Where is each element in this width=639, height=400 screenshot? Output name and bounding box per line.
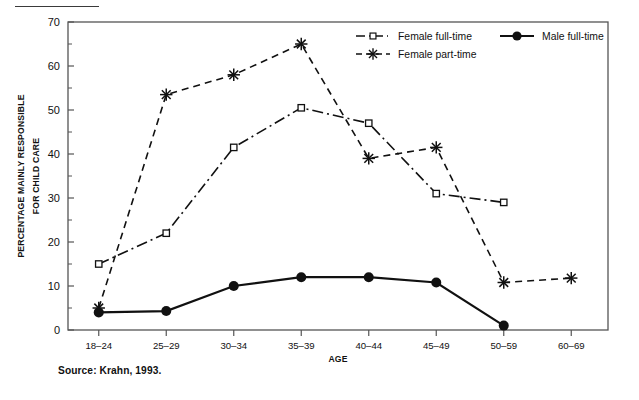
data-point-marker [367, 48, 378, 59]
y-axis-title-line1: PERCENTAGE MAINLY RESPONSIBLE [16, 94, 26, 257]
data-point-marker [160, 88, 172, 100]
x-axis-title: AGE [328, 354, 347, 364]
data-point-marker [499, 321, 509, 331]
x-tick-label: 60–69 [558, 340, 585, 351]
series-2 [93, 38, 578, 314]
data-point-marker [231, 144, 237, 150]
data-point-marker [228, 69, 240, 81]
data-point-marker [94, 307, 104, 317]
legend-item-1[interactable]: Female full-time [356, 31, 472, 42]
x-tick-label: 45–49 [423, 340, 450, 351]
data-point-marker [498, 276, 510, 288]
data-point-marker [433, 190, 439, 196]
data-point-marker [366, 120, 372, 126]
y-tick-label: 60 [48, 60, 60, 72]
data-point-marker [501, 199, 507, 205]
x-axis-tick-labels: 18–2425–2930–3435–3940–4445–4950–5960–69 [85, 340, 584, 351]
data-point-marker [370, 33, 376, 39]
data-point-marker [229, 281, 239, 291]
legend-label: Female part-time [398, 49, 477, 60]
data-point-marker [430, 141, 442, 153]
data-point-marker [295, 38, 307, 50]
legend-label: Male full-time [542, 31, 604, 42]
series-1 [96, 105, 507, 268]
data-point-marker [161, 306, 171, 316]
plot-frame [68, 22, 608, 330]
y-axis-tick-labels: 010203040506070 [48, 16, 60, 336]
x-axis-ticks [99, 330, 572, 336]
data-point-marker [296, 272, 306, 282]
data-point-marker [163, 230, 169, 236]
legend-box [348, 18, 608, 66]
series-line [99, 108, 504, 264]
legend-item-2[interactable]: Female part-time [356, 48, 477, 60]
data-point-marker [512, 31, 521, 40]
source-note: Source: Krahn, 1993. [58, 365, 161, 376]
x-tick-label: 18–24 [85, 340, 112, 351]
data-point-marker [565, 272, 577, 284]
figure-container: 010203040506070 18–2425–2930–3435–3940–4… [0, 0, 639, 400]
y-tick-label: 0 [54, 324, 60, 336]
y-tick-label: 10 [48, 280, 60, 292]
y-tick-label: 30 [48, 192, 60, 204]
x-tick-label: 35–39 [288, 340, 315, 351]
data-point-marker [298, 105, 304, 111]
series-3 [94, 272, 509, 330]
x-tick-label: 50–59 [490, 340, 517, 351]
legend-entries: Female full-timeFemale part-timeMale ful… [356, 31, 604, 60]
x-tick-label: 30–34 [220, 340, 247, 351]
chart-svg: 010203040506070 18–2425–2930–3435–3940–4… [0, 0, 639, 400]
legend-label: Female full-time [398, 31, 472, 42]
legend-item-3[interactable]: Male full-time [500, 31, 604, 42]
series-line [99, 277, 504, 325]
chart-legend: Female full-timeFemale part-timeMale ful… [348, 18, 608, 66]
y-axis-ticks [68, 22, 74, 330]
x-tick-label: 25–29 [153, 340, 180, 351]
data-point-marker [363, 152, 375, 164]
x-tick-label: 40–44 [355, 340, 382, 351]
data-point-marker [364, 272, 374, 282]
y-tick-label: 20 [48, 236, 60, 248]
data-series-layer [93, 38, 578, 331]
data-point-marker [96, 261, 102, 267]
y-tick-label: 50 [48, 104, 60, 116]
data-point-marker [431, 277, 441, 287]
series-line [99, 44, 572, 308]
y-tick-label: 40 [48, 148, 60, 160]
y-tick-label: 70 [48, 16, 60, 28]
y-axis-title-line2: FOR CHILD CARE [31, 138, 41, 214]
